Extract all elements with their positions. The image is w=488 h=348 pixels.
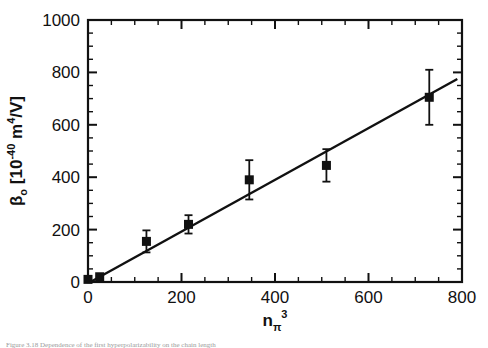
figure-caption: Figure 3.18 Dependence of the first hype…: [6, 341, 476, 348]
svg-text:nπ3: nπ3: [263, 308, 288, 333]
x-tick-label: 800: [448, 288, 476, 307]
figure-container: 0200400600800 02004006008001000 nπ3 βo […: [0, 0, 488, 348]
hyperpolarizability-scatter-chart: 0200400600800 02004006008001000 nπ3 βo […: [0, 0, 488, 348]
y-tick-label: 1000: [42, 11, 80, 30]
x-tick-label: 200: [167, 288, 195, 307]
x-axis-title: nπ3: [263, 308, 288, 333]
data-point-marker: [95, 272, 104, 281]
y-axis-title-exponent-1: -40: [5, 144, 17, 160]
y-tick-label: 800: [52, 63, 80, 82]
x-axis-title-base: n: [263, 311, 273, 330]
x-tick-label: 400: [261, 288, 289, 307]
data-point-marker: [322, 161, 331, 170]
x-axis-title-subscript: π: [273, 321, 282, 333]
y-axis-title-symbol: β: [7, 196, 26, 206]
y-tick-label: 200: [52, 221, 80, 240]
y-axis-title: βo [10-40 m4/V]: [5, 96, 29, 206]
x-tick-label: 0: [83, 288, 92, 307]
data-point-marker: [142, 237, 151, 246]
y-axis-title-bracket: [10: [7, 160, 26, 189]
x-tick-labels: 0200400600800: [83, 288, 476, 307]
y-tick-label: 400: [52, 168, 80, 187]
x-tick-label: 600: [354, 288, 382, 307]
x-axis-title-superscript: 3: [281, 308, 287, 320]
y-axis-title-unit: m: [7, 124, 26, 144]
data-point-marker: [184, 220, 193, 229]
svg-text:βo [10-40 m4/V]: βo [10-40 m4/V]: [5, 96, 29, 206]
y-tick-label: 600: [52, 116, 80, 135]
y-tick-label: 0: [71, 273, 80, 292]
data-point-marker: [425, 93, 434, 102]
data-point-marker: [84, 275, 93, 284]
y-axis-title-tail: /V]: [7, 96, 26, 118]
data-point-marker: [245, 175, 254, 184]
y-tick-labels: 02004006008001000: [42, 11, 80, 292]
